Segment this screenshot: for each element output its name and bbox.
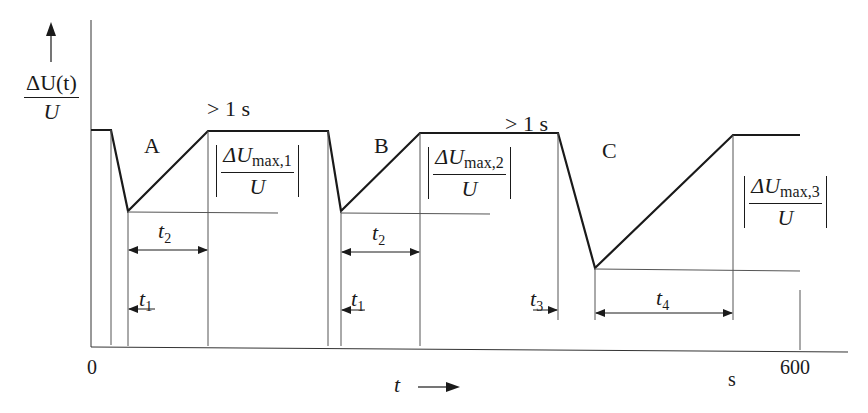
y-axis-label-numerator: ΔU(t) — [24, 72, 79, 98]
magnitude-label-b: ΔUmax,2 U — [424, 146, 515, 200]
abs-bar-left — [428, 147, 429, 199]
x-axis-label: t — [394, 372, 400, 398]
magnitude-label-a: ΔUmax,1 U — [212, 144, 303, 198]
x-axis-origin-label: 0 — [87, 356, 97, 379]
y-axis-label-denominator: U — [43, 98, 59, 123]
time-label-t2-a: t2 — [158, 218, 171, 247]
gap-label-2: > 1 s — [505, 111, 548, 137]
abs-bar-right — [510, 147, 511, 199]
abs-bar-left — [744, 176, 745, 228]
time-label-t4-c: t4 — [656, 285, 669, 314]
y-axis-label: ΔU(t) U — [24, 72, 79, 123]
gap-label-1: > 1 s — [207, 96, 250, 122]
x-axis-arrow-icon — [418, 382, 460, 392]
time-label-t1-b: t1 — [351, 286, 364, 315]
y-axis-arrow-icon — [46, 22, 56, 62]
x-axis — [91, 347, 848, 352]
x-axis-end-label: 600 — [780, 356, 810, 379]
abs-bar-right — [298, 145, 299, 197]
event-label-b: B — [374, 133, 389, 159]
time-label-t1-a: t1 — [139, 286, 152, 315]
min-level-lines — [128, 212, 800, 271]
event-label-a: A — [144, 133, 160, 159]
abs-bar-right — [826, 176, 827, 228]
event-label-c: C — [602, 138, 617, 164]
time-label-t3-c: t3 — [530, 286, 543, 315]
abs-bar-left — [216, 145, 217, 197]
magnitude-label-c: ΔUmax,3 U — [740, 175, 831, 229]
dimension-arrows — [129, 250, 732, 313]
time-label-t2-b: t2 — [372, 220, 385, 249]
diagram-canvas — [0, 0, 868, 413]
x-axis-unit-label: s — [728, 368, 736, 391]
